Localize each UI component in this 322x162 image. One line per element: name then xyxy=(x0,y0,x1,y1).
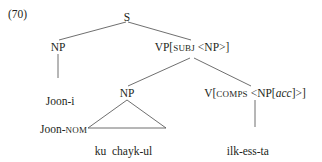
node-subject-np-label: NP xyxy=(51,41,66,53)
node-v-feature: COMPS xyxy=(216,89,248,99)
node-vp-bracket-close: ] xyxy=(226,41,230,53)
node-object-np: NP xyxy=(120,88,135,100)
terminal-verb: ilk-ess-ta read-PST-DECL xyxy=(221,130,289,162)
branch-s-to-subject-np xyxy=(59,22,126,40)
node-vp-feature: SUBJ xyxy=(173,43,195,53)
branch-vp-to-object-np xyxy=(128,58,190,86)
terminal-subject-stem: Joon- xyxy=(40,123,66,135)
node-v: V[COMPS <NP[acc]>] xyxy=(204,88,306,100)
node-subject-np: NP xyxy=(51,42,66,54)
terminal-subject-gloss: NOM xyxy=(66,125,88,135)
terminal-verb-line1: ilk-ess-ta xyxy=(227,145,269,157)
terminal-subject-line1: Joon-i xyxy=(46,95,75,107)
node-v-value-open: <NP[ xyxy=(248,87,276,99)
node-v-case: acc xyxy=(276,87,292,99)
branch-s-to-vp xyxy=(128,22,191,40)
terminal-subject: Joon-i Joon-NOM xyxy=(40,80,87,151)
node-s: S xyxy=(124,12,130,24)
terminal-object: ku chayk-ul the book-ACC xyxy=(89,130,155,162)
terminal-object-line1: ku chayk-ul xyxy=(95,145,152,157)
node-vp-category: VP xyxy=(155,41,170,53)
node-v-bracket-close: ] xyxy=(302,87,306,99)
node-v-value-close: ]> xyxy=(292,87,302,99)
triangle-object-np xyxy=(88,100,166,128)
node-object-np-label: NP xyxy=(120,87,135,99)
node-s-label: S xyxy=(124,11,130,23)
node-vp-value: <NP> xyxy=(195,41,226,53)
node-vp: VP[SUBJ <NP>] xyxy=(155,42,230,54)
branch-vp-to-v xyxy=(194,58,251,86)
example-number: (70) xyxy=(8,8,27,20)
terminal-subject-line2: Joon-NOM xyxy=(40,122,87,137)
